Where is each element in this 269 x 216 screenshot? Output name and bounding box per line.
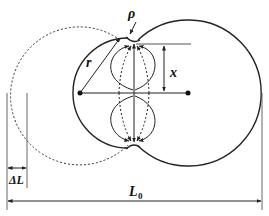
label-rho: ρ	[127, 6, 135, 21]
label-r: r	[86, 55, 92, 70]
label-l0: L	[128, 184, 138, 199]
original-circle-dashed	[11, 27, 128, 165]
label-l0-subscript: 0	[138, 191, 143, 201]
sintering-neck-diagram: r ρ x ΔL L 0	[0, 0, 269, 216]
label-x: x	[169, 65, 177, 80]
dashed-flux-left-bottom	[119, 93, 131, 141]
flux-curve-right-bottom	[135, 96, 155, 141]
flux-curve-left-bottom	[111, 96, 133, 141]
dashed-flux-left-top	[119, 46, 131, 93]
label-delta-l: ΔL	[8, 173, 24, 187]
right-center-dot	[186, 91, 191, 96]
flux-curve-right-top	[135, 46, 155, 90]
rho-pointer	[130, 22, 136, 34]
